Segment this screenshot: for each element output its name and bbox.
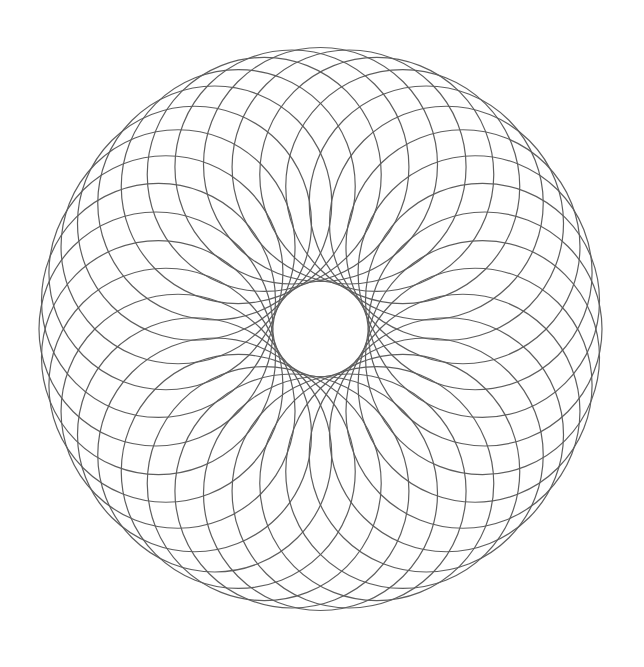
- pattern-circle: [175, 374, 409, 608]
- pattern-circle: [77, 106, 311, 340]
- pattern-circle: [98, 86, 332, 320]
- pattern-circle: [232, 374, 466, 608]
- pattern-circle: [175, 50, 409, 284]
- pattern-circle: [309, 338, 543, 572]
- pattern-circle: [330, 318, 564, 552]
- rotated-circles-pattern: [0, 0, 644, 667]
- pattern-circle: [366, 183, 600, 417]
- pattern-circle: [77, 318, 311, 552]
- pattern-circle: [98, 338, 332, 572]
- pattern-circle: [330, 106, 564, 340]
- pattern-circle: [366, 241, 600, 475]
- circle-ring-group: [39, 48, 602, 611]
- pattern-circle: [309, 86, 543, 320]
- pattern-circle: [42, 241, 276, 475]
- pattern-circle: [232, 50, 466, 284]
- pattern-circle: [42, 183, 276, 417]
